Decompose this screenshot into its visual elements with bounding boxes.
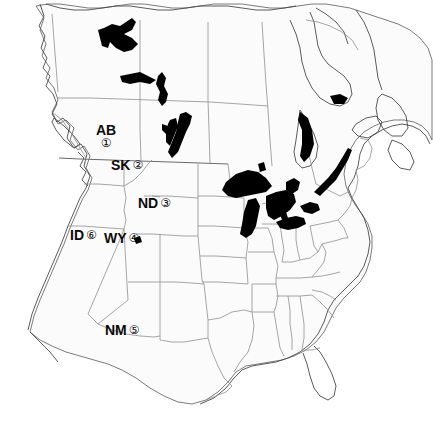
map-label-new-mexico: NM ⑤ (105, 323, 140, 337)
region-abbr-ab: AB (96, 123, 116, 137)
region-abbr-wy: WY (104, 231, 127, 245)
region-number-wy: ④ (129, 232, 140, 245)
region-number-nd: ③ (160, 197, 171, 210)
map-label-wyoming: WY ④ (104, 231, 139, 245)
reference-map-figure: AB ① SK ② ND ③ ID ⑥ WY ④ NM ⑤ (0, 0, 433, 429)
map-graphic (0, 0, 433, 429)
region-abbr-nd: ND (138, 196, 158, 210)
region-number-ab: ① (101, 137, 112, 150)
region-abbr-id: ID (70, 228, 84, 242)
region-number-nm: ⑤ (129, 324, 140, 337)
map-label-saskatchewan: SK ② (111, 158, 143, 172)
map-label-alberta: AB ① (96, 123, 116, 150)
region-number-sk: ② (132, 159, 143, 172)
map-label-north-dakota: ND ③ (138, 196, 171, 210)
region-number-id: ⑥ (86, 229, 97, 242)
region-abbr-sk: SK (111, 158, 130, 172)
region-abbr-nm: NM (105, 323, 127, 337)
map-label-idaho: ID ⑥ (70, 228, 97, 242)
